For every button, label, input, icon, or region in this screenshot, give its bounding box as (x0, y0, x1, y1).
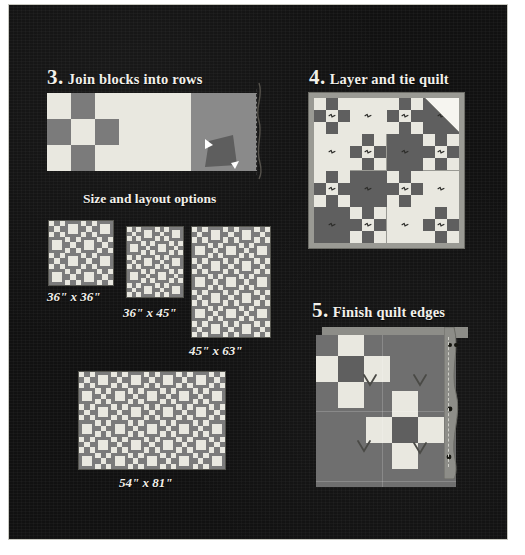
plain-block-center (98, 375, 108, 385)
step-4-quilt (309, 93, 464, 248)
plain-block-center (211, 293, 221, 303)
tie-knot-icon (356, 439, 372, 453)
seam-line (316, 481, 456, 482)
nine-patch-block (128, 453, 144, 469)
tie-knot-icon (328, 186, 337, 191)
nine-patch-block (209, 372, 225, 388)
nine-patch-block (111, 437, 127, 453)
tie-knot-icon (364, 114, 373, 119)
plain-block (49, 269, 65, 285)
nine-patch-block (97, 237, 113, 253)
plain-block (81, 269, 97, 285)
nine-patch-block (239, 274, 255, 290)
plain-block (176, 388, 192, 404)
tie-knot-icon (400, 222, 409, 227)
nine-patch-block (144, 372, 160, 388)
nine-patch-block (314, 98, 350, 134)
nine-patch-block (314, 171, 350, 207)
size-option-label-1: 36" x 36" (47, 289, 100, 305)
nine-patch-block (192, 227, 208, 243)
plain-block (127, 241, 141, 255)
nine-patch-block (65, 269, 81, 285)
nine-patch-block (209, 404, 225, 420)
nine-patch-block (223, 258, 239, 274)
plain-block (79, 388, 95, 404)
nine-patch-block (254, 227, 270, 243)
plain-block (209, 453, 225, 469)
plain-block-center (163, 407, 173, 417)
tie-knot-icon (436, 150, 445, 155)
nine-patch-block (127, 255, 141, 269)
step-5-illustration (316, 327, 468, 487)
nine-patch-block (128, 420, 144, 436)
plain-block-center (100, 224, 110, 234)
nine-patch-block (79, 437, 95, 453)
gray-block-with-fold (191, 93, 257, 171)
tie-knot-icon (362, 373, 378, 387)
plain-block-center (68, 256, 78, 266)
plain-block-center (144, 286, 153, 295)
plain-block (208, 227, 224, 243)
nine-patch-block (160, 453, 176, 469)
plain-block-center (212, 391, 222, 401)
plain-block-center (242, 261, 252, 271)
nine-patch-block (111, 372, 127, 388)
plain-block-center (115, 424, 125, 434)
plain-block (95, 404, 111, 420)
nine-patch-block (79, 404, 95, 420)
nine-patch-block (176, 404, 192, 420)
size-option-label-3: 45" x 63" (189, 343, 242, 359)
tie-knot-icon (364, 186, 373, 191)
tie-knot-icon (328, 114, 337, 119)
plain-block-center (179, 424, 189, 434)
tie-knot-icon (400, 186, 409, 191)
plain-block-center (52, 272, 62, 282)
plain-block-center (52, 240, 62, 250)
nine-patch-block (254, 321, 270, 337)
plain-block (128, 372, 144, 388)
nine-patch-block (239, 306, 255, 322)
needle-icon (251, 81, 267, 181)
nine-patch-block (81, 253, 97, 269)
nine-patch-block (423, 207, 459, 243)
plain-block-center (68, 224, 78, 234)
plain-block (169, 283, 183, 297)
size-option-quilt-2 (127, 227, 183, 297)
plain-block (387, 207, 423, 243)
plain-block (111, 453, 127, 469)
plain-block (193, 437, 209, 453)
plain-block (160, 437, 176, 453)
plain-block-center (98, 440, 108, 450)
plain-block (111, 420, 127, 436)
plain-block (192, 243, 208, 259)
nine-patch-block (208, 306, 224, 322)
plain-block (176, 453, 192, 469)
nine-patch-block (97, 269, 113, 285)
patch-light (418, 417, 444, 443)
nine-patch-block (254, 290, 270, 306)
plain-block (111, 388, 127, 404)
plain-block (239, 227, 255, 243)
step-3-title: Join blocks into rows (68, 71, 203, 87)
nine-patch-block (127, 227, 141, 241)
plain-block-center (144, 230, 153, 239)
nine-patch-block (127, 283, 141, 297)
nine-patch-block (49, 253, 65, 269)
plain-block (193, 372, 209, 388)
nine-patch-block (193, 388, 209, 404)
plain-block (423, 171, 459, 207)
plain-block-center (196, 440, 206, 450)
plain-block-center (144, 258, 153, 267)
plain-block (127, 269, 141, 283)
plain-block (209, 420, 225, 436)
plain-block (387, 134, 423, 170)
patch-light (392, 391, 418, 417)
plain-block-center (257, 246, 267, 256)
nine-patch-block (49, 221, 65, 237)
plain-block-center (212, 424, 222, 434)
plain-block (223, 274, 239, 290)
plain-block-center (131, 407, 141, 417)
plain-block-center (163, 440, 173, 450)
patch-center-dark (338, 356, 364, 382)
plain-block (155, 269, 169, 283)
